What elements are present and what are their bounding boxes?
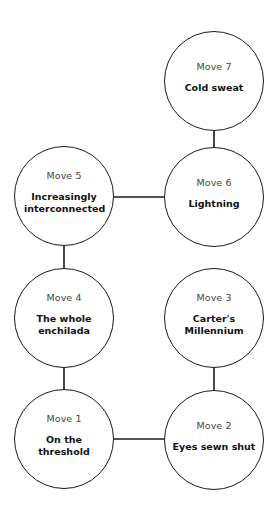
move-number: Move 7 (196, 61, 231, 72)
move-diagram: Move 7 Cold sweat Move 6 Lightning Move … (0, 0, 280, 514)
move-number: Move 2 (196, 420, 231, 431)
node-move-2: Move 2 Eyes sewn shut (164, 390, 264, 490)
move-number: Move 1 (46, 413, 81, 424)
move-number: Move 5 (46, 170, 81, 181)
move-name: Eyes sewn shut (169, 441, 260, 453)
move-number: Move 3 (196, 292, 231, 303)
move-name: On the threshold (15, 434, 113, 458)
node-move-3: Move 3 Carter's Millennium (164, 268, 264, 368)
move-name: Cold sweat (181, 82, 248, 94)
move-number: Move 4 (46, 292, 81, 303)
move-name: Carter's Millennium (175, 313, 253, 337)
node-move-6: Move 6 Lightning (164, 147, 264, 247)
node-move-5: Move 5 Increasingly interconnected (14, 146, 114, 246)
move-name: Lightning (185, 198, 244, 210)
node-move-4: Move 4 The whole enchilada (14, 268, 114, 368)
node-move-7: Move 7 Cold sweat (164, 31, 264, 131)
move-number: Move 6 (196, 177, 231, 188)
move-name: Increasingly interconnected (20, 191, 108, 215)
node-move-1: Move 1 On the threshold (14, 389, 114, 489)
move-name: The whole enchilada (25, 313, 103, 337)
